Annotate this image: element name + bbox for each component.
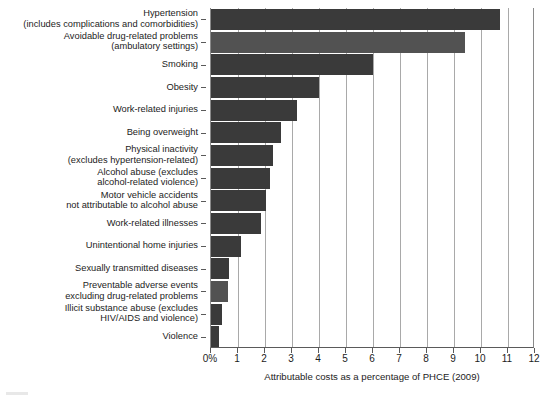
x-tick-label-3: 3 — [288, 353, 294, 365]
bar-row — [211, 258, 535, 279]
x-tick-label-2: 2 — [261, 353, 267, 365]
category-tick — [201, 133, 206, 134]
bar — [211, 54, 373, 75]
bar-row — [211, 213, 535, 234]
bar — [211, 213, 261, 234]
category-label: Motor vehicle accidents not attributable… — [0, 190, 198, 211]
bar — [211, 9, 500, 30]
bar-row — [211, 281, 535, 302]
x-tick-label-6: 6 — [369, 353, 375, 365]
bar — [211, 145, 273, 166]
category-label: Preventable adverse events excluding dru… — [0, 280, 198, 301]
scan-artifact — [6, 392, 28, 395]
bar-row — [211, 168, 535, 189]
bar — [211, 326, 219, 347]
category-label: Physical inactivity (excludes hypertensi… — [0, 144, 198, 165]
bar-row — [211, 190, 535, 211]
bar — [211, 100, 297, 121]
bar — [211, 77, 319, 98]
bar — [211, 168, 270, 189]
category-tick — [201, 178, 206, 179]
bar-row — [211, 100, 535, 121]
bar — [211, 236, 241, 257]
x-tick-label-10: 10 — [474, 353, 485, 365]
category-label: Obesity — [0, 82, 198, 93]
x-tick-label-9: 9 — [450, 353, 456, 365]
category-tick — [201, 314, 206, 315]
bar-row — [211, 122, 535, 143]
category-tick — [201, 110, 206, 111]
bar — [211, 258, 229, 279]
category-labels: Hypertension (includes complications and… — [0, 8, 206, 348]
x-tick-label-8: 8 — [423, 353, 429, 365]
bar-row — [211, 32, 535, 53]
category-tick — [201, 337, 206, 338]
category-label: Sexually transmitted diseases — [0, 263, 198, 274]
plot-area — [210, 8, 534, 348]
category-tick — [201, 87, 206, 88]
bar — [211, 122, 281, 143]
category-tick — [201, 269, 206, 270]
category-label: Smoking — [0, 59, 198, 70]
bar-row — [211, 236, 535, 257]
category-label: Being overweight — [0, 127, 198, 138]
category-label: Illicit substance abuse (excludes HIV/AI… — [0, 303, 198, 324]
bar-row — [211, 9, 535, 30]
x-axis-tick-labels: 0%123456789101112 — [150, 353, 549, 369]
x-tick-label-0: 0% — [203, 353, 217, 365]
bar — [211, 281, 228, 302]
bar — [211, 304, 222, 325]
x-tick-label-7: 7 — [396, 353, 402, 365]
category-tick — [201, 42, 206, 43]
category-tick — [201, 246, 206, 247]
category-label: Violence — [0, 331, 198, 342]
bar-row — [211, 77, 535, 98]
bar — [211, 32, 465, 53]
category-label: Unintentional home injuries — [0, 240, 198, 251]
x-tick-label-12: 12 — [528, 353, 539, 365]
x-tick-label-4: 4 — [315, 353, 321, 365]
category-label: Work-related injuries — [0, 104, 198, 115]
x-tick-label-5: 5 — [342, 353, 348, 365]
category-tick — [201, 291, 206, 292]
category-tick — [201, 201, 206, 202]
category-tick — [201, 19, 206, 20]
bar-row — [211, 326, 535, 347]
bar — [211, 190, 266, 211]
x-axis-title: Attributable costs as a percentage of PH… — [210, 371, 534, 382]
category-label: Work-related illnesses — [0, 218, 198, 229]
bar-row — [211, 145, 535, 166]
bar-row — [211, 54, 535, 75]
bar-chart: Hypertension (includes complications and… — [0, 0, 549, 409]
category-tick — [201, 155, 206, 156]
bars — [211, 8, 533, 346]
category-label: Avoidable drug-related problems (ambulat… — [0, 31, 198, 52]
x-tick-label-1: 1 — [234, 353, 240, 365]
category-tick — [201, 65, 206, 66]
category-tick — [201, 223, 206, 224]
category-label: Hypertension (includes complications and… — [0, 8, 198, 29]
category-label: Alcohol abuse (excludes alcohol-related … — [0, 167, 198, 188]
x-tick-label-11: 11 — [502, 353, 512, 365]
bar-row — [211, 304, 535, 325]
